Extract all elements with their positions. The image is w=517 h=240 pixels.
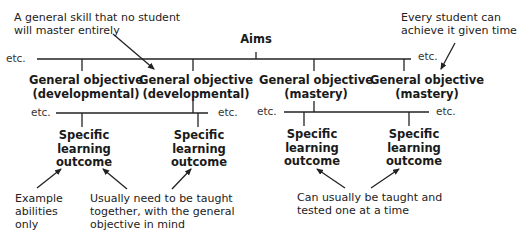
specific-learning-outcome: Specific learning outcome	[386, 128, 442, 169]
annotation-taught-one-at-a-time: Can usually be taught and tested one at …	[297, 192, 442, 218]
aims-title: Aims	[240, 33, 272, 47]
general-objective-developmental: General objective (developmental)	[29, 74, 143, 101]
annotation-mastery: Every student can achieve it given time	[401, 12, 517, 38]
specific-learning-outcome: Specific learning outcome	[284, 128, 340, 169]
arrow-icon	[441, 43, 455, 69]
etc-label: etc.	[218, 106, 238, 118]
etc-label: etc.	[418, 50, 438, 62]
arrow-icon	[317, 169, 345, 188]
specific-learning-outcome: Specific learning outcome	[56, 129, 112, 170]
etc-label: etc.	[257, 105, 277, 117]
etc-label: etc.	[31, 106, 51, 118]
arrow-icon	[103, 169, 127, 189]
arrow-icon	[172, 169, 191, 189]
annotation-example-abilities: Example abilities only	[15, 193, 63, 232]
general-objective-mastery: General objective (mastery)	[370, 74, 484, 101]
arrow-icon	[37, 169, 61, 188]
annotation-developmental: A general skill that no student will mas…	[14, 12, 180, 38]
annotation-taught-together: Usually need to be taught together, with…	[90, 193, 235, 232]
general-objective-mastery: General objective (mastery)	[259, 74, 373, 101]
general-objective-developmental: General objective (developmental)	[139, 74, 253, 101]
etc-label: etc.	[436, 105, 456, 117]
arrow-icon	[371, 169, 399, 188]
specific-learning-outcome: Specific learning outcome	[171, 129, 227, 170]
arrow-icon	[113, 34, 154, 69]
etc-label: etc.	[6, 52, 26, 64]
